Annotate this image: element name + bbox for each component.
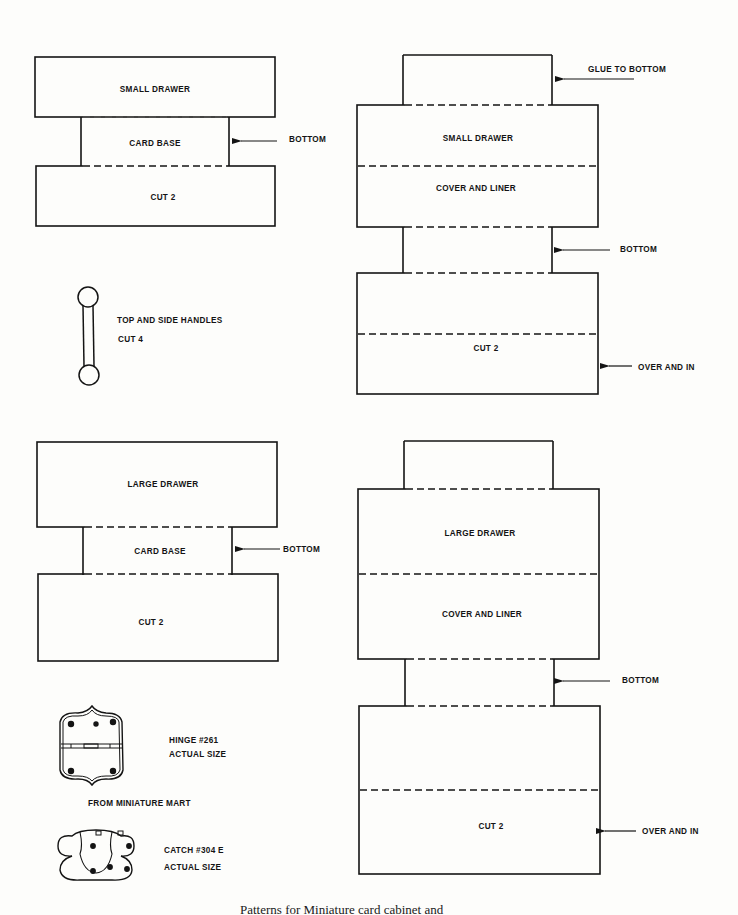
source-label: FROM MINIATURE MART [88,799,191,808]
bottom-arrow-label: BOTTOM [622,676,659,685]
hinge-size: ACTUAL SIZE [169,750,226,759]
over-and-in-label: OVER AND IN [642,827,699,836]
cut-label: CUT 2 [478,822,503,831]
handle-pattern [78,287,99,385]
catch-name: CATCH #304 E [164,846,224,855]
large-drawer-label: LARGE DRAWER [128,480,199,489]
cover-and-liner-label: COVER AND LINER [442,610,522,619]
cut-label: CUT 2 [150,193,175,202]
bottom-arrow-label: BOTTOM [620,245,657,254]
large-drawer-label: LARGE DRAWER [445,529,516,538]
catch-icon [58,830,134,880]
catch-size: ACTUAL SIZE [164,863,221,872]
handles-cut: CUT 4 [118,335,143,344]
handles-title: TOP AND SIDE HANDLES [117,316,222,325]
hinge-name: HINGE #261 [169,736,218,745]
bottom-arrow-label: BOTTOM [289,135,326,144]
small-drawer-label: SMALL DRAWER [120,85,190,94]
card-base-label: CARD BASE [129,139,180,148]
bottom-arrow-label: BOTTOM [283,545,320,554]
cut-label: CUT 2 [138,618,163,627]
cover-and-liner-label: COVER AND LINER [436,184,516,193]
pattern-sheet: SMALL DRAWER CARD BASE CUT 2 BOTTOM TOP … [0,0,738,915]
glue-to-bottom-label: GLUE TO BOTTOM [588,65,666,74]
figure-caption: Patterns for Miniature card cabinet and [240,902,443,915]
large-drawer-pattern [358,441,636,874]
small-drawer-label: SMALL DRAWER [443,134,513,143]
cut-label: CUT 2 [473,344,498,353]
over-and-in-label: OVER AND IN [638,363,695,372]
hinge-icon [60,706,123,785]
pattern-drawings [0,0,738,915]
card-base-label: CARD BASE [134,547,185,556]
